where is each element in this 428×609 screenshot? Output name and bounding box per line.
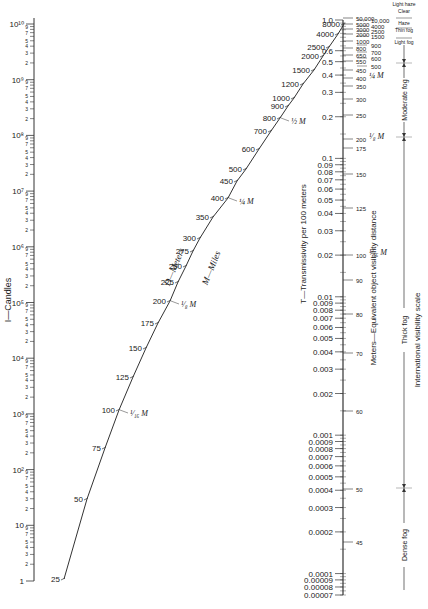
candles-major-tick-label: 10⁵: [12, 299, 24, 308]
distance-tick-label: 800: [263, 114, 277, 123]
transmissivity-tick-label: 0.3: [322, 88, 334, 97]
visibility-distance-tick-label: 800: [356, 46, 367, 52]
visibility-distance-tick-label: 100: [356, 253, 367, 259]
transmissivity-tick-label: 0.02: [317, 251, 333, 260]
visibility-distance-tick-label: 300: [356, 97, 367, 103]
candles-minor-tick-label: 3: [25, 329, 28, 335]
distance-mile-mark: ¼ M: [239, 197, 255, 206]
transmissivity-tick-label: 0.004: [313, 348, 334, 357]
candles-major-tick-label: 10²: [12, 466, 24, 475]
candles-minor-tick-label: 4: [25, 377, 28, 383]
transmissivity-tick-label: 0.0007: [309, 453, 334, 462]
intl-scale-category: Light haze: [392, 1, 415, 7]
candles-minor-tick-label: 3: [25, 384, 28, 390]
visibility-mile-mark: ¹⁄₈ M: [369, 132, 386, 141]
visibility-distance-tick-label: 900: [371, 43, 382, 49]
transmissivity-tick-label: 0.005: [313, 334, 334, 343]
transmissivity-tick-label: 0.04: [317, 209, 333, 218]
visibility-distance-scale: 50,0005000300020001000800650550450400350…: [343, 16, 390, 546]
candles-minor-tick-label: 5: [25, 428, 28, 434]
candles-minor-tick-label: 7: [25, 531, 28, 537]
candles-minor-tick-label: 3: [25, 106, 28, 112]
transmissivity-tick-label: 0.6: [322, 47, 334, 56]
candles-minor-tick-label: 7: [25, 141, 28, 147]
candles-minor-tick-label: 4: [25, 544, 28, 550]
candles-minor-tick-label: 9: [25, 135, 28, 141]
candles-minor-tick-label: 2: [25, 116, 28, 122]
transmissivity-tick-label: 0.007: [313, 314, 334, 323]
distance-tick-label: 1200: [281, 80, 299, 89]
candles-minor-tick-label: 5: [25, 149, 28, 155]
candles-minor-tick-label: 5: [25, 38, 28, 44]
candles-minor-tick-label: 3: [25, 217, 28, 223]
intl-scale-category: Dense fog: [401, 529, 409, 561]
distance-tick-label: 1500: [292, 66, 310, 75]
candles-minor-tick-label: 4: [25, 266, 28, 272]
candles-minor-tick-label: 2: [25, 450, 28, 456]
visibility-distance-tick-label: 1000: [356, 39, 370, 45]
candles-minor-tick-label: 9: [25, 413, 28, 419]
candles-minor-tick-label: 5: [25, 539, 28, 545]
visibility-distance-tick-label: 2000: [356, 32, 370, 38]
distance-tick-label: 1000: [272, 94, 290, 103]
distance-tick-label: 700: [254, 127, 268, 136]
visibility-distance-tick-label: 90: [356, 278, 363, 284]
candles-minor-tick-label: 5: [25, 372, 28, 378]
candles-major-tick-label: 1: [20, 577, 25, 586]
distance-tick-label: 900: [271, 102, 285, 111]
intl-scale-category: Thick fog: [401, 316, 409, 345]
candles-minor-tick-label: 9: [25, 79, 28, 85]
candles-minor-tick-label: 9: [25, 358, 28, 364]
candles-minor-tick-label: 5: [25, 483, 28, 489]
distance-tick-label: 150: [129, 344, 143, 353]
candles-minor-tick-label: 3: [25, 496, 28, 502]
transmissivity-axis-label: T—Transmissivity per 100 meters: [299, 184, 308, 303]
distance-tick-label: 4000: [316, 30, 334, 39]
visibility-distance-tick-label: 400: [356, 76, 367, 82]
transmissivity-tick-label: 0.006: [313, 323, 334, 332]
transmissivity-tick-label: 0.2: [322, 113, 334, 122]
transmissivity-tick-label: 0.002: [313, 390, 334, 399]
distance-tick-label: 125: [116, 373, 130, 382]
visibility-distance-tick-label: 500: [371, 64, 382, 70]
candles-minor-tick-label: 9: [25, 469, 28, 475]
transmissivity-tick-label: 0.003: [313, 365, 334, 374]
visibility-distance-tick-label: 70: [356, 351, 363, 357]
candles-minor-tick-label: 3: [25, 162, 28, 168]
candles-minor-tick-label: 4: [25, 155, 28, 161]
visibility-distance-tick-label: 150: [356, 172, 367, 178]
transmissivity-tick-label: 1.0: [322, 16, 334, 25]
candles-minor-tick-label: 5: [25, 93, 28, 99]
candles-minor-tick-label: 4: [25, 99, 28, 105]
transmissivity-tick-label: 0.05: [317, 196, 333, 205]
visibility-distance-tick-label: 550: [356, 59, 367, 65]
candles-major-tick-label: 10: [15, 521, 24, 530]
candles-minor-tick-label: 7: [25, 420, 28, 426]
candles-minor-tick-label: 2: [25, 171, 28, 177]
candles-minor-tick-label: 2: [25, 283, 28, 289]
candles-minor-tick-label: 7: [25, 30, 28, 36]
candles-major-tick-label: 10³: [12, 410, 24, 419]
visibility-distance-tick-label: 600: [371, 56, 382, 62]
candles-minor-tick-label: 2: [25, 60, 28, 66]
visibility-distance-tick-label: 250: [356, 113, 367, 119]
visibility-distance-tick-label: 175: [356, 146, 367, 152]
visibility-nomogram: 12345791023457910²23457910³23457910⁴2345…: [0, 0, 428, 609]
intl-scale-category: Haze: [398, 20, 410, 26]
visibility-distance-tick-label: 350: [356, 84, 367, 90]
candles-minor-tick-label: 4: [25, 210, 28, 216]
candles-minor-tick-label: 2: [25, 506, 28, 512]
candles-minor-tick-label: 7: [25, 85, 28, 91]
visibility-distance-tick-label: 1500: [371, 34, 385, 40]
candles-minor-tick-label: 5: [25, 316, 28, 322]
candles-minor-tick-label: 9: [25, 246, 28, 252]
candles-minor-tick-label: 7: [25, 252, 28, 258]
candles-major-tick-label: 10⁴: [12, 354, 25, 363]
candles-scale: 12345791023457910²23457910³23457910⁴2345…: [9, 18, 34, 586]
candles-minor-tick-label: 2: [25, 394, 28, 400]
visibility-distance-tick-label: 50: [356, 487, 363, 493]
candles-major-tick-label: 10⁷: [12, 187, 24, 196]
transmissivity-tick-label: 0.5: [322, 58, 334, 67]
candles-minor-tick-label: 3: [25, 440, 28, 446]
distance-tick-label: 600: [242, 145, 256, 154]
